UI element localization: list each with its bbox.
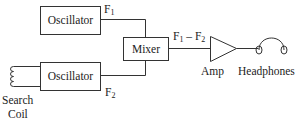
amp-label: Amp bbox=[201, 65, 224, 77]
signal-f1-label: F1 bbox=[104, 3, 114, 19]
amp-triangle-icon bbox=[211, 37, 237, 62]
oscillator-bottom-label: Oscillator bbox=[40, 70, 101, 82]
wire-f1 bbox=[101, 20, 146, 38]
mixer-label: Mixer bbox=[123, 43, 169, 55]
search-coil-label-line2: Coil bbox=[8, 108, 28, 120]
signal-f2-label: F2 bbox=[105, 86, 115, 102]
headphones-icon bbox=[256, 38, 287, 54]
search-coil-icon bbox=[11, 67, 41, 87]
headphones-label: Headphones bbox=[238, 65, 295, 77]
signal-diff-label: F1 – F2 bbox=[173, 30, 205, 46]
search-coil-label-line1: Search bbox=[2, 94, 33, 106]
oscillator-top-label: Oscillator bbox=[40, 14, 101, 26]
wire-f2 bbox=[101, 61, 146, 76]
